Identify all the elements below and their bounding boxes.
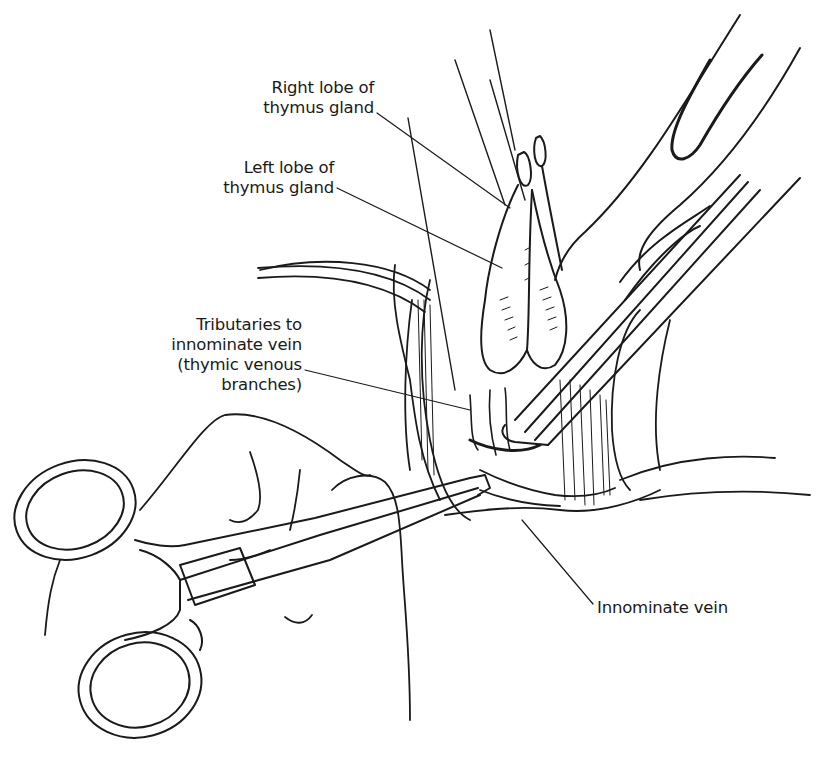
label-line: thymus gland	[198, 178, 334, 198]
label-line: innominate vein	[95, 335, 302, 355]
label-line: Left lobe of	[198, 158, 334, 178]
label-innominate-vein: Innominate vein	[597, 598, 728, 618]
label-line: Tributaries to	[95, 315, 302, 335]
hemostat	[0, 444, 490, 752]
label-line: (thymic venous branches)	[95, 355, 302, 395]
label-tributaries: Tributaries to innominate vein (thymic v…	[95, 315, 302, 395]
label-line: thymus gland	[238, 98, 374, 118]
retractor	[555, 15, 800, 300]
surgical-illustration: Right lobe of thymus gland Left lobe of …	[0, 0, 825, 757]
label-right-lobe: Right lobe of thymus gland	[238, 78, 374, 118]
hand	[45, 414, 410, 720]
innominate-vein	[480, 470, 615, 506]
label-left-lobe: Left lobe of thymus gland	[198, 158, 334, 198]
label-line: Innominate vein	[597, 598, 728, 618]
label-line: Right lobe of	[238, 78, 374, 98]
tributary-veins	[470, 388, 540, 455]
suction-tube	[258, 266, 430, 312]
